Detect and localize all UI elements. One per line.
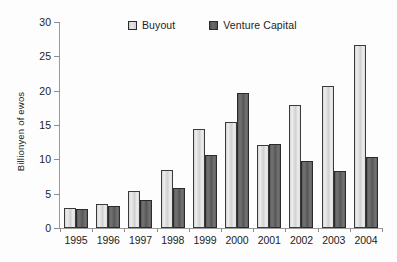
bar-group-1995 <box>60 22 92 228</box>
x-axis-label-2002: 2002 <box>290 234 313 246</box>
bar-2003-buyout <box>322 86 334 228</box>
bar-group-2000 <box>221 22 253 228</box>
bar-2000-buyout <box>225 122 237 228</box>
bar-2004-buyout <box>354 45 366 228</box>
bar-group-1997 <box>124 22 156 228</box>
bar-2002-buyout <box>289 105 301 228</box>
bar-group-1996 <box>92 22 124 228</box>
x-axis-label-1995: 1995 <box>65 234 88 246</box>
x-axis-label-1997: 1997 <box>129 234 152 246</box>
x-axis-label-1998: 1998 <box>161 234 184 246</box>
x-axis-label-2003: 2003 <box>322 234 345 246</box>
bar-chart: Buyout Venture Capital Billionyen of ewo… <box>0 0 397 262</box>
x-tick-2004 <box>350 228 351 232</box>
bar-2003-venture-capital <box>334 171 346 228</box>
bar-group-1999 <box>189 22 221 228</box>
bar-2002-venture-capital <box>301 161 313 228</box>
y-tick-label-0: 0 <box>45 222 51 234</box>
x-tick-1996 <box>92 228 93 232</box>
bar-1999-buyout <box>193 129 205 228</box>
x-tick-1999 <box>189 228 190 232</box>
y-axis-title-text: Billionyen of ewos <box>16 91 27 171</box>
y-tick-label-15: 15 <box>39 119 51 131</box>
x-tick-2002 <box>285 228 286 232</box>
bar-2001-buyout <box>257 145 269 228</box>
bar-1998-venture-capital <box>173 188 185 229</box>
y-tick-label-20: 20 <box>39 85 51 97</box>
bar-1998-buyout <box>161 170 173 228</box>
x-tick-1997 <box>124 228 125 232</box>
bar-2004-venture-capital <box>366 157 378 228</box>
bar-group-2001 <box>253 22 285 228</box>
y-tick-label-10: 10 <box>39 153 51 165</box>
x-tick-1998 <box>157 228 158 232</box>
bar-1999-venture-capital <box>205 155 217 228</box>
x-axis-label-2000: 2000 <box>226 234 249 246</box>
x-tick-2000 <box>221 228 222 232</box>
plot-area: 051015202530 <box>60 22 382 228</box>
y-tick-label-5: 5 <box>45 188 51 200</box>
bar-2000-venture-capital <box>237 93 249 228</box>
bar-1996-buyout <box>96 204 108 228</box>
x-axis-label-2004: 2004 <box>354 234 377 246</box>
x-tick-2001 <box>253 228 254 232</box>
x-tick-2003 <box>318 228 319 232</box>
x-axis-label-1999: 1999 <box>193 234 216 246</box>
bar-1995-venture-capital <box>76 209 88 228</box>
bar-group-2002 <box>285 22 317 228</box>
y-tick-label-25: 25 <box>39 50 51 62</box>
x-tick-1995 <box>60 228 61 232</box>
x-axis-label-1996: 1996 <box>97 234 120 246</box>
bar-1996-venture-capital <box>108 206 120 228</box>
bar-1997-venture-capital <box>140 200 152 228</box>
bar-1997-buyout <box>128 191 140 228</box>
y-axis-title: Billionyen of ewos <box>10 0 32 262</box>
bar-group-2003 <box>318 22 350 228</box>
bar-group-2004 <box>350 22 382 228</box>
x-tick-end <box>382 228 383 232</box>
bar-group-1998 <box>157 22 189 228</box>
x-axis-label-2001: 2001 <box>258 234 281 246</box>
y-tick-label-30: 30 <box>39 16 51 28</box>
bar-1995-buyout <box>64 208 76 228</box>
bar-2001-venture-capital <box>269 144 281 228</box>
